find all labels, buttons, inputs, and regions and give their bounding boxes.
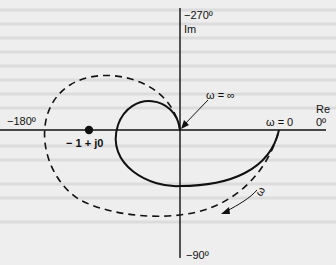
real-axis-label: Re	[316, 104, 330, 115]
solid-locus	[116, 101, 279, 186]
nyquist-diagram	[0, 0, 336, 265]
omega-zero-label: ω = 0	[266, 117, 293, 128]
bottom-angle-label: −90º	[186, 250, 209, 261]
critical-point-label: − 1 + j0	[66, 138, 103, 149]
left-angle-label: −180º	[7, 116, 36, 127]
right-angle-label: 0º	[316, 117, 326, 128]
omega-direction-arrow	[225, 190, 257, 212]
top-angle-label: −270º	[184, 10, 213, 21]
imaginary-axis-label: Im	[184, 24, 196, 35]
omega-direction-arrowhead	[221, 207, 230, 214]
omega-infinity-arrow	[183, 100, 208, 126]
omega-infinity-label: ω = ∞	[206, 90, 235, 101]
critical-point-marker	[85, 126, 93, 134]
